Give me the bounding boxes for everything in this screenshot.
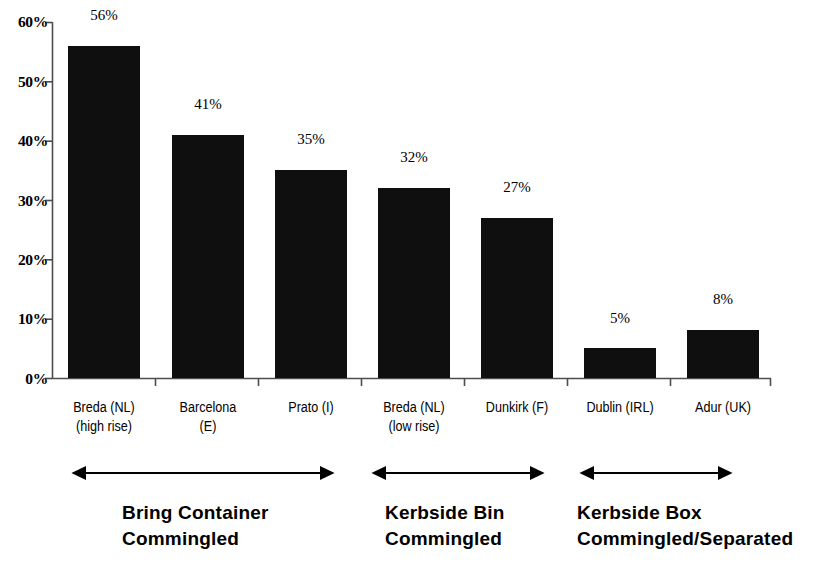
plot-area: 60% 50% 40% 30% 20% 10% 0% 56% 41% 35% 3… [0,0,827,400]
chart-page: 60% 50% 40% 30% 20% 10% 0% 56% 41% 35% 3… [0,0,827,561]
x-label-breda-low-rise-line1: Breda (NL) [383,399,445,415]
x-label-dublin-line1: Dublin (IRL) [586,399,653,415]
y-tick-label-50: 50% [2,74,48,90]
value-label-breda-low-rise: 32% [374,150,454,165]
bar-breda-low-rise [378,188,450,378]
bar-adur [687,330,759,378]
x-label-prato: Prato (I) [257,398,365,417]
y-tick-label-60: 60% [2,14,48,30]
x-label-breda-high-rise: Breda (NL) (high rise) [50,398,158,436]
x-label-dunkirk: Dunkirk (F) [463,398,571,417]
y-axis-labels: 60% 50% 40% 30% 20% 10% 0% [0,0,48,400]
x-label-dunkirk-line1: Dunkirk (F) [486,399,548,415]
group-caption-bring-container-line1: Bring Container [122,500,269,526]
y-tick-label-0: 0% [2,371,48,387]
value-label-breda-high-rise: 56% [64,8,144,23]
value-label-barcelona: 41% [168,97,248,112]
x-label-barcelona-line2: (E) [154,417,262,436]
y-tick-label-20: 20% [2,252,48,268]
x-label-barcelona: Barcelona (E) [154,398,262,436]
x-label-dublin: Dublin (IRL) [566,398,674,417]
bar-prato [275,170,347,378]
value-label-prato: 35% [271,132,351,147]
x-label-adur: Adur (UK) [669,398,777,417]
group-caption-kerbside-bin-line2: Commingled [385,526,505,552]
bar-dunkirk [481,218,553,378]
group-caption-kerbside-bin: Kerbside Bin Commingled [385,500,505,552]
group-caption-bring-container-line2: Commingled [122,526,269,552]
x-label-prato-line1: Prato (I) [288,399,334,415]
bar-dublin [584,348,656,378]
x-label-adur-line1: Adur (UK) [695,399,751,415]
group-arrows-svg [0,460,827,488]
x-axis-labels: Breda (NL) (high rise) Barcelona (E) Pra… [0,398,827,458]
x-label-breda-high-rise-line1: Breda (NL) [73,399,135,415]
group-caption-kerbside-box-line1: Kerbside Box [577,500,793,526]
x-label-breda-low-rise-line2: (low rise) [360,417,468,436]
group-caption-kerbside-box-line2: Commingled/Separated [577,526,793,552]
value-label-dunkirk: 27% [477,180,557,195]
y-tick-label-30: 30% [2,193,48,209]
x-label-breda-high-rise-line2: (high rise) [50,417,158,436]
group-caption-kerbside-box: Kerbside Box Commingled/Separated [577,500,793,552]
x-label-barcelona-line1: Barcelona [180,399,237,415]
y-tick-label-10: 10% [2,311,48,327]
bar-barcelona [172,135,244,378]
x-label-breda-low-rise: Breda (NL) (low rise) [360,398,468,436]
group-captions: Bring Container Commingled Kerbside Bin … [0,500,827,561]
bar-breda-high-rise [68,46,140,378]
y-tick-label-40: 40% [2,133,48,149]
value-label-adur: 8% [683,292,763,307]
value-label-dublin: 5% [580,311,660,326]
group-range-arrows [0,460,827,488]
group-caption-bring-container: Bring Container Commingled [122,500,269,552]
group-caption-kerbside-bin-line1: Kerbside Bin [385,500,505,526]
